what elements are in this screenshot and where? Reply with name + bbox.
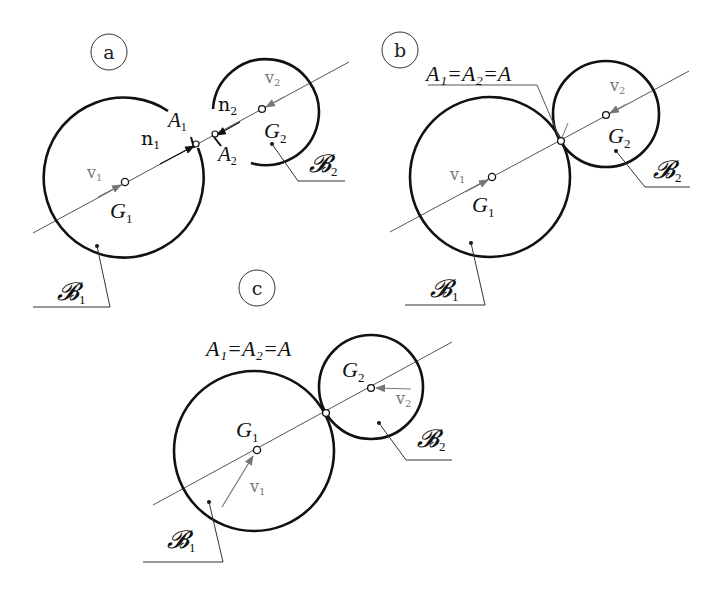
velocity-arrow-2 [610, 104, 627, 113]
panel-label: a [103, 41, 114, 63]
body-2-label: 𝓑2 [309, 150, 338, 179]
centroid-1-label: G1 [236, 417, 258, 445]
normal-2-label: n2 [218, 93, 237, 118]
contact-label: A₁=A₂=A [424, 61, 512, 86]
contact-point [558, 138, 565, 145]
centroid-1 [488, 173, 495, 180]
panel-a: a v1 v2 G1 G2 A1 A2 n1 n2 [33, 34, 349, 307]
body-2-label: 𝓑2 [417, 425, 446, 454]
velocity-arrow-1 [222, 456, 253, 507]
body-1-label: 𝓑1 [57, 278, 86, 307]
collision-diagram: a v1 v2 G1 G2 A1 A2 n1 n2 [0, 0, 715, 595]
centroid-1 [121, 178, 128, 185]
panel-b: b A₁=A₂=A v1 v2 G1 G2 𝓑1 𝓑2 [382, 32, 690, 305]
centroid-1 [253, 446, 260, 453]
centroid-1-label: G1 [110, 198, 132, 226]
centroid-2 [603, 112, 610, 119]
contact-label: A₁=A₂=A [204, 336, 292, 361]
velocity-2-label: v2 [264, 68, 280, 88]
centroid-2 [259, 106, 266, 113]
body-1-label: 𝓑1 [430, 275, 459, 304]
contact-point-2 [212, 131, 218, 137]
velocity-arrow-2 [376, 388, 411, 389]
velocity-arrow-1 [465, 180, 488, 192]
contact-label-leader [428, 85, 560, 139]
velocity-1-label: v1 [249, 477, 265, 497]
normal-arrow-1 [160, 146, 194, 164]
contact-1-label: A1 [166, 108, 187, 134]
body-1-label: 𝓑1 [167, 526, 196, 555]
velocity-1-label: v1 [449, 165, 465, 185]
velocity-2-label: v2 [395, 389, 411, 409]
velocity-arrow-1 [98, 185, 121, 197]
normal-arrow-2 [217, 122, 240, 135]
centroid-2-label: G2 [608, 123, 630, 151]
velocity-arrow-2 [266, 97, 284, 107]
contact-point [323, 410, 330, 417]
centroid-2 [368, 385, 375, 392]
centroid-2-label: G2 [264, 118, 286, 146]
velocity-2-label: v2 [609, 76, 625, 96]
centroid-2-label: G2 [342, 357, 364, 385]
contact-2-label: A2 [216, 142, 237, 168]
normal-1-label: n1 [141, 127, 160, 152]
panel-label: c [252, 277, 263, 299]
panel-label: b [394, 39, 406, 61]
velocity-1-label: v1 [86, 163, 102, 183]
contact-point-1 [193, 141, 199, 147]
panel-c: c A₁=A₂=A v1 v2 G1 G2 𝓑1 𝓑2 [143, 270, 452, 562]
body-2-label: 𝓑2 [653, 156, 682, 185]
centroid-1-label: G1 [472, 192, 494, 220]
